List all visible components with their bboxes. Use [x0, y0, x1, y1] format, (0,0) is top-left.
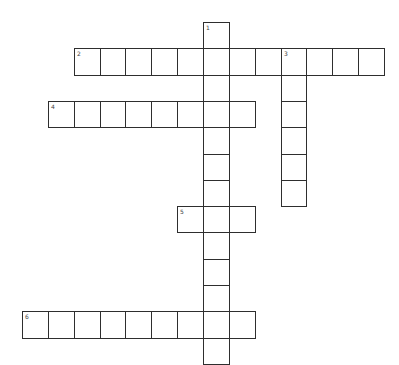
- crossword-cell[interactable]: [281, 154, 307, 181]
- crossword-cell[interactable]: [125, 48, 152, 76]
- crossword-cell[interactable]: [203, 311, 230, 339]
- cell-letter-input[interactable]: [49, 102, 74, 127]
- cell-letter-input[interactable]: [178, 312, 203, 338]
- crossword-cell[interactable]: [203, 154, 230, 181]
- cell-letter-input[interactable]: [101, 312, 125, 338]
- crossword-cell[interactable]: [203, 75, 230, 102]
- crossword-cell[interactable]: [48, 311, 75, 339]
- crossword-cell[interactable]: [203, 232, 230, 260]
- cell-letter-input[interactable]: [204, 181, 229, 206]
- cell-letter-input[interactable]: [204, 312, 229, 338]
- crossword-cell[interactable]: [203, 180, 230, 207]
- crossword-cell[interactable]: [125, 311, 152, 339]
- crossword-cell[interactable]: [203, 338, 230, 365]
- crossword-cell[interactable]: [229, 48, 256, 76]
- cell-letter-input[interactable]: [152, 102, 177, 127]
- crossword-cell[interactable]: [151, 311, 178, 339]
- cell-letter-input[interactable]: [75, 102, 100, 127]
- cell-letter-input[interactable]: [333, 49, 358, 75]
- cell-letter-input[interactable]: [282, 49, 306, 75]
- cell-letter-input[interactable]: [204, 76, 229, 101]
- crossword-cell[interactable]: [100, 48, 126, 76]
- cell-letter-input[interactable]: [282, 76, 306, 101]
- cell-letter-input[interactable]: [204, 260, 229, 285]
- cell-letter-input[interactable]: [204, 233, 229, 259]
- crossword-cell[interactable]: 1: [203, 22, 230, 49]
- crossword-cell[interactable]: 6: [22, 311, 49, 339]
- crossword-cell[interactable]: [203, 127, 230, 155]
- cell-letter-input[interactable]: [359, 49, 384, 75]
- crossword-cell[interactable]: [281, 101, 307, 128]
- cell-letter-input[interactable]: [256, 49, 281, 75]
- cell-letter-input[interactable]: [204, 102, 229, 127]
- crossword-cell[interactable]: [151, 101, 178, 128]
- cell-letter-input[interactable]: [204, 49, 229, 75]
- crossword-cell[interactable]: [203, 101, 230, 128]
- crossword-cell[interactable]: [358, 48, 385, 76]
- crossword-cell[interactable]: [203, 206, 230, 233]
- crossword-cell[interactable]: [151, 48, 178, 76]
- crossword-cell[interactable]: [281, 180, 307, 207]
- cell-letter-input[interactable]: [230, 207, 255, 232]
- cell-letter-input[interactable]: [23, 312, 48, 338]
- crossword-cell[interactable]: [125, 101, 152, 128]
- cell-letter-input[interactable]: [49, 312, 74, 338]
- crossword-cell[interactable]: [332, 48, 359, 76]
- crossword-cell[interactable]: [203, 285, 230, 312]
- crossword-cell[interactable]: [100, 311, 126, 339]
- cell-letter-input[interactable]: [126, 102, 151, 127]
- cell-letter-input[interactable]: [307, 49, 332, 75]
- cell-letter-input[interactable]: [126, 312, 151, 338]
- cell-letter-input[interactable]: [282, 102, 306, 127]
- cell-letter-input[interactable]: [126, 49, 151, 75]
- crossword-cell[interactable]: [177, 48, 204, 76]
- cell-letter-input[interactable]: [178, 207, 203, 232]
- cell-letter-input[interactable]: [75, 49, 100, 75]
- crossword-cell[interactable]: [177, 311, 204, 339]
- crossword-cell[interactable]: [229, 206, 256, 233]
- crossword-cell[interactable]: [306, 48, 333, 76]
- crossword-cell[interactable]: [229, 101, 256, 128]
- cell-letter-input[interactable]: [204, 128, 229, 154]
- cell-letter-input[interactable]: [101, 49, 125, 75]
- crossword-cell[interactable]: [74, 101, 101, 128]
- crossword-cell[interactable]: [74, 311, 101, 339]
- cell-letter-input[interactable]: [178, 49, 203, 75]
- cell-letter-input[interactable]: [152, 312, 177, 338]
- cell-letter-input[interactable]: [204, 286, 229, 311]
- crossword-cell[interactable]: [255, 48, 282, 76]
- cell-letter-input[interactable]: [152, 49, 177, 75]
- cell-letter-input[interactable]: [101, 102, 125, 127]
- crossword-cell[interactable]: [203, 48, 230, 76]
- cell-letter-input[interactable]: [230, 312, 255, 338]
- crossword-cell[interactable]: 3: [281, 48, 307, 76]
- cell-letter-input[interactable]: [282, 181, 306, 206]
- cell-letter-input[interactable]: [204, 23, 229, 48]
- cell-letter-input[interactable]: [204, 207, 229, 232]
- crossword-cell[interactable]: [203, 259, 230, 286]
- cell-letter-input[interactable]: [178, 102, 203, 127]
- crossword-cell[interactable]: 2: [74, 48, 101, 76]
- cell-letter-input[interactable]: [282, 155, 306, 180]
- crossword-cell[interactable]: 5: [177, 206, 204, 233]
- crossword-cell[interactable]: [281, 127, 307, 155]
- cell-letter-input[interactable]: [282, 128, 306, 154]
- cell-letter-input[interactable]: [204, 155, 229, 180]
- cell-letter-input[interactable]: [204, 339, 229, 364]
- crossword-cell[interactable]: [100, 101, 126, 128]
- cell-letter-input[interactable]: [75, 312, 100, 338]
- crossword-cell[interactable]: [229, 311, 256, 339]
- crossword-cell[interactable]: [177, 101, 204, 128]
- cell-letter-input[interactable]: [230, 102, 255, 127]
- crossword-cell[interactable]: 4: [48, 101, 75, 128]
- crossword-cell[interactable]: [281, 75, 307, 102]
- cell-letter-input[interactable]: [230, 49, 255, 75]
